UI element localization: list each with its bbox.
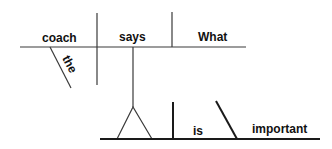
sentence-diagram: coach says What the is important bbox=[0, 0, 332, 149]
object-word: What bbox=[198, 30, 227, 44]
subject-word: coach bbox=[42, 31, 77, 45]
clause-verb-word: is bbox=[193, 124, 203, 138]
verb-word: says bbox=[119, 30, 146, 44]
clause-pedestal bbox=[117, 107, 152, 139]
complement-word: important bbox=[252, 122, 307, 136]
complement-slant-line bbox=[216, 101, 237, 139]
